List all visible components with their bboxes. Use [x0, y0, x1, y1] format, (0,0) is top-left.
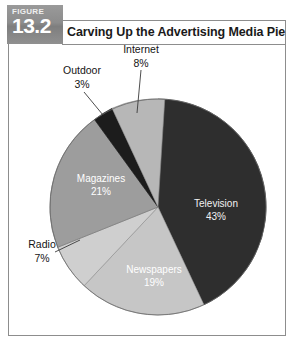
figure-panel: FIGURE 13.2 Carving Up the Advertising M…: [0, 0, 296, 348]
pie-label-magazines-value: 21%: [91, 186, 111, 197]
pie-label-radio-value: 7%: [34, 252, 49, 264]
chart-title: Carving Up the Advertising Media Pie: [67, 25, 285, 39]
pie-label-magazines-name: Magazines: [77, 173, 125, 184]
pie-chart-svg: Television 43% Newspapers 19% Magazines …: [8, 20, 286, 336]
figure-number-tab: FIGURE 13.2: [7, 5, 63, 44]
pie-label-television-name: Television: [194, 198, 238, 209]
pie-label-outdoor-name: Outdoor: [63, 64, 101, 76]
title-divider: [62, 44, 286, 45]
pie-chart-area: Television 43% Newspapers 19% Magazines …: [8, 20, 286, 336]
pie-label-outdoor-value: 3%: [74, 78, 89, 90]
pie-label-radio-name: Radio: [28, 238, 56, 250]
leader-line-outdoor: [84, 92, 103, 115]
figure-number-text: 13.2: [12, 15, 63, 37]
pie-label-internet-value: 8%: [133, 57, 148, 69]
pie-label-newspapers-name: Newspapers: [126, 264, 182, 275]
pie-label-newspapers-value: 19%: [144, 277, 164, 288]
pie-label-television-value: 43%: [206, 211, 226, 222]
